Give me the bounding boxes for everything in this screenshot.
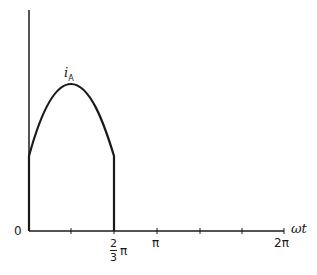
- tick-label-two-pi: 2π: [274, 237, 289, 249]
- tick-label-pi: π: [152, 237, 159, 249]
- waveform-diagram: [0, 0, 317, 275]
- origin-label: 0: [14, 225, 22, 237]
- curve-label-ia: iA: [64, 66, 74, 79]
- x-axis-label-omega-t: ωt: [291, 222, 307, 235]
- tick-label-two-thirds-pi: 2 3: [110, 238, 117, 263]
- tick-label-two-thirds-pi-symbol: π: [120, 245, 127, 257]
- current-waveform-ia: [29, 84, 114, 231]
